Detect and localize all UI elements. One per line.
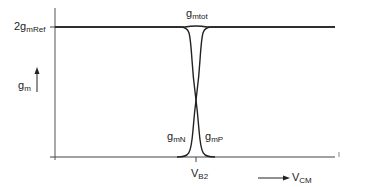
- x-tick-label-vb2: VB2: [191, 168, 208, 181]
- gmtot-label: gmtot: [186, 8, 208, 21]
- y-tick-label-2gmref: 2gmRef: [14, 21, 45, 34]
- y-axis-label: gm: [18, 80, 31, 93]
- gmn-label: gmN: [167, 131, 186, 144]
- plot-canvas: [0, 0, 376, 188]
- gm-arrow-head: [35, 67, 40, 74]
- gmn-curve: [55, 27, 215, 157]
- vcm-arrow-head: [283, 176, 290, 181]
- gmp-label: gmP: [205, 131, 223, 144]
- gmp-curve: [177, 27, 335, 157]
- x-axis-label: VCM: [292, 172, 312, 185]
